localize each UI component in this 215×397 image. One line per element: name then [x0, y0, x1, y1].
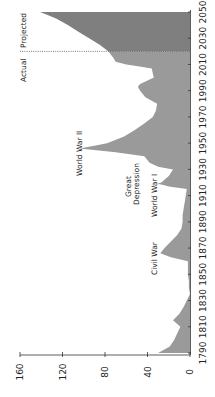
year-tick-label: 1790: [198, 341, 208, 364]
world-war-1-annotation: World War I: [150, 174, 159, 217]
value-tick-label: 120: [58, 363, 68, 380]
great-depression-annotation-line2: Depression: [132, 163, 141, 205]
value-tick-label: 160: [15, 363, 25, 380]
projected-label: Projected: [19, 13, 28, 48]
value-tick-label: 0: [185, 369, 195, 375]
area-series: [40, 12, 190, 353]
year-tick-label: 1850: [198, 263, 208, 286]
year-tick-label: 1930: [198, 158, 208, 181]
value-tick-label: 40: [143, 366, 153, 378]
year-tick-label: 1810: [198, 315, 208, 338]
year-tick-label: 2050: [198, 0, 208, 23]
world-war-2-annotation: World War II: [75, 131, 84, 176]
year-tick-label: 2030: [198, 27, 208, 50]
year-tick-label: 1870: [198, 236, 208, 259]
year-axis-ticks: 1790181018301850187018901910193019501970…: [188, 0, 208, 364]
value-tick-label: 80: [100, 366, 110, 378]
value-axis-ticks: 04080120160: [15, 352, 195, 381]
civil-war-annotation: Civil War: [150, 241, 159, 275]
actual-label: Actual: [19, 59, 28, 83]
debt-area-chart: 04080120160 1790181018301850187018901910…: [0, 0, 215, 397]
year-tick-label: 1970: [198, 105, 208, 128]
year-tick-label: 1890: [198, 210, 208, 233]
year-tick-label: 1910: [198, 184, 208, 207]
year-tick-label: 1990: [198, 79, 208, 102]
year-tick-label: 1830: [198, 289, 208, 312]
area-projected: [40, 12, 190, 51]
year-tick-label: 2010: [198, 53, 208, 76]
year-tick-label: 1950: [198, 131, 208, 154]
